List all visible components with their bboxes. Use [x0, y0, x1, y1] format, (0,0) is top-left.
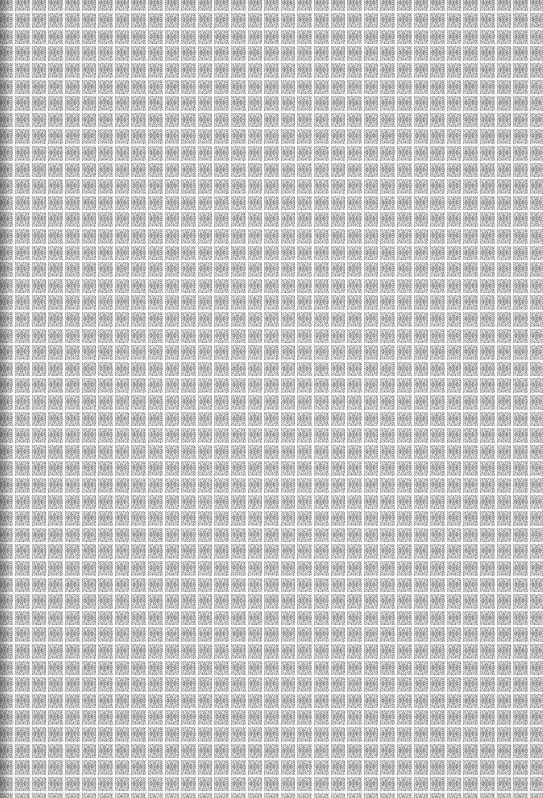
texture-swatch-root — [0, 0, 543, 798]
texture-grid-canvas — [0, 0, 543, 798]
